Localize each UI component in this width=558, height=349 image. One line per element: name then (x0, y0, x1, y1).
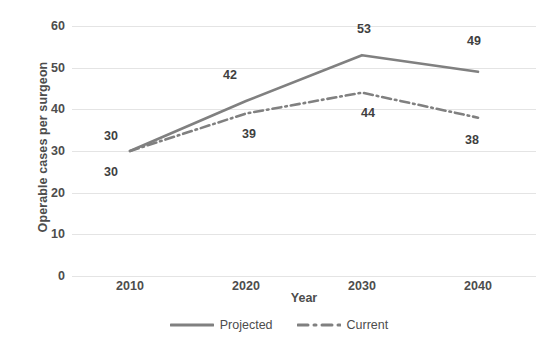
data-label: 38 (465, 133, 479, 147)
data-label: 49 (467, 34, 481, 48)
legend-entry-current[interactable]: Current (297, 318, 389, 332)
chart-legend: ProjectedCurrent (0, 318, 558, 332)
y-axis-tick-label: 30 (51, 144, 65, 158)
legend-swatch-solid-icon (170, 320, 214, 330)
line-chart: Operable cases per surgeon 0102030405060… (0, 0, 558, 349)
y-axis-tick-label: 0 (58, 269, 65, 283)
data-label: 30 (104, 165, 118, 179)
y-axis-title: Operable cases per surgeon (36, 27, 50, 267)
series-layer (72, 26, 536, 276)
data-label: 42 (223, 68, 237, 82)
legend-entry-projected[interactable]: Projected (170, 318, 273, 332)
y-axis-tick-label: 60 (51, 19, 65, 33)
data-label: 39 (242, 127, 256, 141)
data-label: 44 (361, 106, 375, 120)
y-axis-tick-label: 50 (51, 61, 65, 75)
gridline (72, 276, 536, 277)
y-axis-tick-label: 20 (51, 186, 65, 200)
series-line-current (130, 93, 478, 151)
data-label: 53 (357, 22, 371, 36)
x-axis-title: Year (72, 291, 536, 305)
plot-area: 0102030405060 2010202020302040 304253493… (72, 26, 536, 276)
y-axis-tick-label: 40 (51, 102, 65, 116)
legend-label: Projected (220, 318, 273, 332)
legend-swatch-dash-dot-icon (297, 320, 341, 330)
y-axis-tick-label: 10 (51, 227, 65, 241)
data-label: 30 (104, 129, 118, 143)
legend-label: Current (347, 318, 389, 332)
